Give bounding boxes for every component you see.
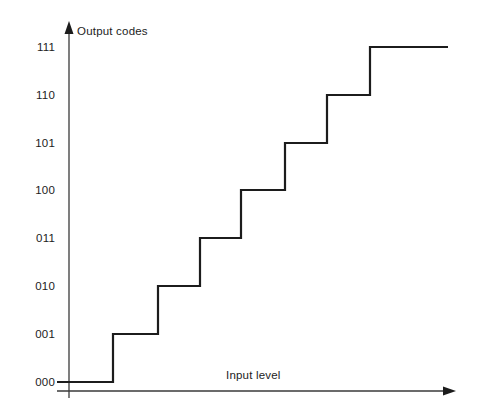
y-tick-label-100: 100 (21, 184, 55, 196)
quantization-staircase-curve (57, 47, 448, 382)
y-tick-label-000: 000 (21, 376, 55, 388)
x-axis-arrow-icon (443, 387, 456, 396)
figure-canvas (0, 0, 482, 417)
y-tick-label-101: 101 (21, 137, 55, 149)
adc-transfer-function-figure: 111 110 101 100 011 010 001 000 Output c… (0, 0, 482, 417)
y-tick-label-110: 110 (21, 89, 55, 101)
y-tick-label-011: 011 (21, 232, 55, 244)
x-axis-title: Input level (226, 369, 281, 381)
y-axis-title: Output codes (77, 25, 148, 37)
y-tick-label-001: 001 (21, 328, 55, 340)
y-axis-arrow-icon (65, 21, 74, 34)
y-tick-label-010: 010 (21, 280, 55, 292)
y-tick-label-111: 111 (21, 41, 55, 53)
